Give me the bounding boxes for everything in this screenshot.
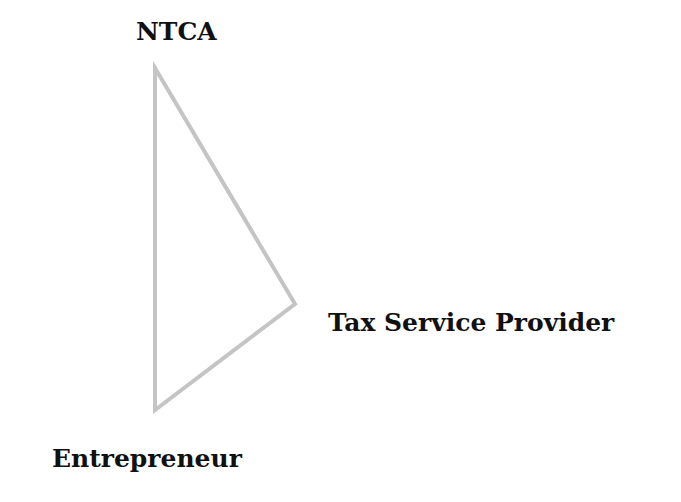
node-label-entrepreneur: Entrepreneur — [52, 446, 242, 471]
node-label-tax-service-provider: Tax Service Provider — [328, 310, 614, 335]
triangle-diagram — [0, 0, 681, 502]
node-label-ntca: NTCA — [136, 19, 217, 44]
triangle-shape — [155, 68, 295, 410]
